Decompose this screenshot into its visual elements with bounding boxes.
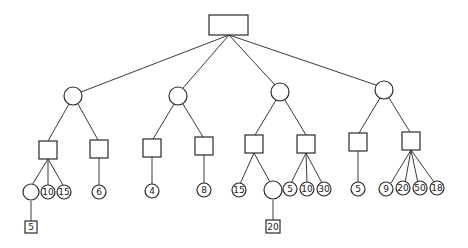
leaf-node: 5 xyxy=(351,182,365,196)
leaf-node: 30 xyxy=(317,182,331,196)
leaf-square-node: 20 xyxy=(266,220,280,233)
svg-text:9: 9 xyxy=(383,184,389,194)
svg-text:15: 15 xyxy=(58,187,69,197)
leaf-node: 8 xyxy=(197,183,211,197)
leaf-node: 15 xyxy=(232,183,246,197)
svg-text:15: 15 xyxy=(233,185,244,195)
chance-node-1 xyxy=(64,87,82,105)
decision-node-3a xyxy=(245,135,263,153)
decision-node-4b xyxy=(402,132,420,150)
decision-node-2b xyxy=(195,137,213,155)
svg-text:5: 5 xyxy=(28,222,34,232)
svg-text:5: 5 xyxy=(355,184,361,194)
tree-diagram: 10 15 5 6 4 8 15 20 5 10 30 xyxy=(0,0,468,248)
chance-node-4 xyxy=(375,81,393,99)
svg-text:8: 8 xyxy=(201,185,207,195)
leaf-node: 10 xyxy=(41,185,55,199)
svg-text:50: 50 xyxy=(414,183,426,193)
decision-node-4a xyxy=(349,133,367,151)
chance-node-2 xyxy=(169,87,187,105)
leaf-square-node: 5 xyxy=(25,221,37,233)
leaf-node: 15 xyxy=(57,185,71,199)
root-node xyxy=(209,15,248,35)
decision-node-2a xyxy=(143,139,161,157)
chance-node-3 xyxy=(271,83,289,101)
leaf-circle-empty xyxy=(264,181,282,199)
svg-text:30: 30 xyxy=(318,184,330,194)
decision-node-1b xyxy=(90,140,108,158)
svg-text:10: 10 xyxy=(301,184,313,194)
decision-node-3b xyxy=(297,135,315,153)
leaf-circle-empty xyxy=(23,184,39,200)
svg-text:5: 5 xyxy=(287,184,293,194)
svg-text:6: 6 xyxy=(96,187,102,197)
svg-text:10: 10 xyxy=(42,187,54,197)
decision-node-1a xyxy=(39,141,57,159)
svg-text:18: 18 xyxy=(431,183,443,193)
leaf-node: 20 xyxy=(396,181,410,195)
leaf-node: 5 xyxy=(283,182,297,196)
leaf-node: 10 xyxy=(300,182,314,196)
svg-text:20: 20 xyxy=(397,183,409,193)
leaf-node: 18 xyxy=(430,181,444,195)
leaf-node: 9 xyxy=(379,182,393,196)
svg-text:20: 20 xyxy=(267,222,279,232)
leaf-node: 50 xyxy=(413,181,427,195)
leaf-node: 6 xyxy=(92,185,106,199)
leaf-node: 4 xyxy=(145,184,159,198)
svg-text:4: 4 xyxy=(149,186,155,196)
